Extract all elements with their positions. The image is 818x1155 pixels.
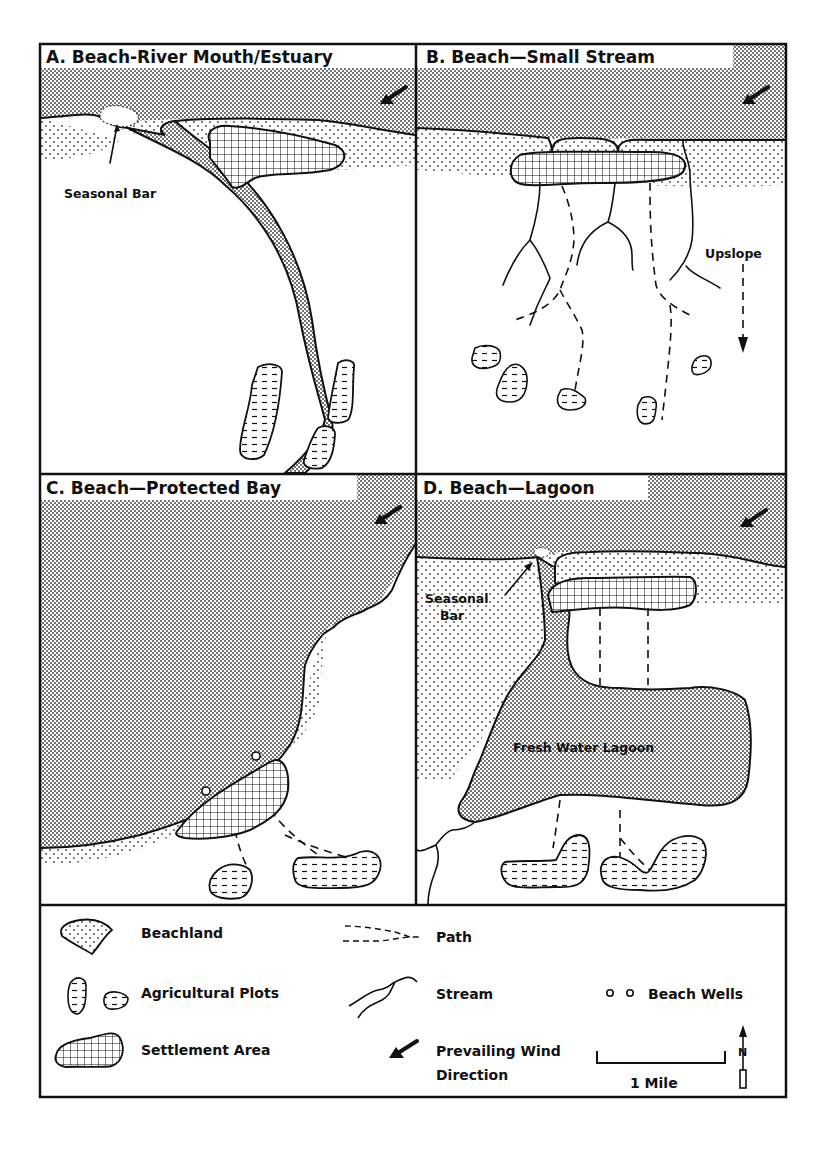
north-arrow-icon: N xyxy=(738,1025,747,1088)
path-icon xyxy=(343,926,420,941)
legend: Beachland Agricultural Plots Settlement … xyxy=(55,919,747,1091)
north-label: N xyxy=(738,1046,747,1059)
beach-well-icon xyxy=(252,752,260,760)
wind-arrow-icon xyxy=(389,1041,417,1058)
agricultural-plot xyxy=(472,345,501,368)
agricultural-plot-icon xyxy=(104,992,128,1009)
scale-label: 1 Mile xyxy=(630,1075,678,1091)
legend-label-wind-line2: Direction xyxy=(436,1067,508,1083)
beach-well-icon xyxy=(607,990,613,996)
legend-label-path: Path xyxy=(436,929,472,945)
legend-item-agricultural-plots: Agricultural Plots xyxy=(68,978,279,1014)
beach-well-icon xyxy=(202,787,210,795)
agricultural-plot xyxy=(293,851,380,888)
settlement-area xyxy=(548,577,696,612)
seasonal-bar-label: Seasonal Bar xyxy=(64,186,157,201)
legend-label-beachland: Beachland xyxy=(141,925,223,941)
upslope-label: Upslope xyxy=(705,246,762,261)
panel-b-title: B. Beach—Small Stream xyxy=(426,47,655,67)
agricultural-plot xyxy=(637,397,656,424)
legend-label-agricultural-plots: Agricultural Plots xyxy=(141,985,279,1001)
settlement-area-icon xyxy=(55,1033,122,1067)
legend-item-beach-wells: Beach Wells xyxy=(607,986,743,1002)
legend-label-stream: Stream xyxy=(436,986,493,1002)
sea xyxy=(417,68,785,140)
legend-label-beach-wells: Beach Wells xyxy=(648,986,743,1002)
legend-item-path: Path xyxy=(343,926,472,945)
seasonal-bar-label-line1: Seasonal xyxy=(425,591,489,606)
agricultural-plot-icon xyxy=(68,978,86,1014)
beach-settlement-diagram: A. Beach-River Mouth/Estuary Seasonal Ba… xyxy=(0,0,818,1155)
stream-icon xyxy=(349,977,417,1018)
seasonal-bar-label-line2: Bar xyxy=(440,608,465,623)
legend-label-wind-line1: Prevailing Wind xyxy=(436,1043,561,1059)
panel-a-title: A. Beach-River Mouth/Estuary xyxy=(46,47,333,67)
legend-item-stream: Stream xyxy=(349,977,493,1018)
panel-c-title: C. Beach—Protected Bay xyxy=(46,478,281,498)
panel-a xyxy=(41,45,415,473)
panel-c xyxy=(41,475,415,904)
beachland-icon xyxy=(61,919,112,954)
legend-item-beachland: Beachland xyxy=(61,919,223,954)
legend-item-settlement-area: Settlement Area xyxy=(55,1033,270,1067)
scale-bar: 1 Mile xyxy=(597,1051,725,1091)
lagoon-label: Fresh Water Lagoon xyxy=(513,740,654,755)
legend-label-settlement-area: Settlement Area xyxy=(141,1042,271,1058)
panel-d-title: D. Beach—Lagoon xyxy=(423,478,595,498)
panel-d xyxy=(417,475,785,904)
legend-item-wind: Prevailing Wind Direction xyxy=(389,1041,561,1083)
beach-well-icon xyxy=(627,990,633,996)
settlement-area xyxy=(511,152,685,186)
